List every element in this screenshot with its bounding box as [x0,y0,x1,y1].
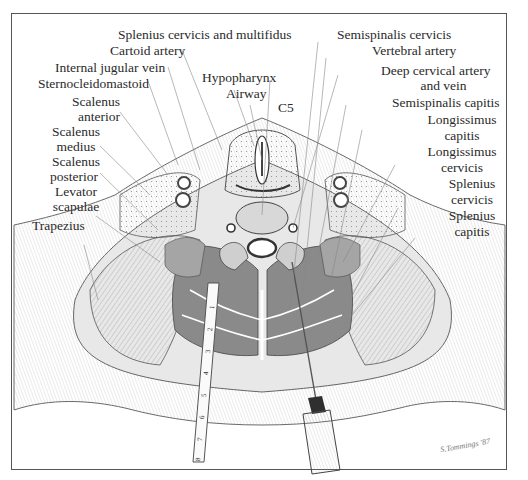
label-splenius-capitis-2: capitis [440,224,504,239]
label-scalenus-medius-2: medius [48,139,104,154]
label-levator-scapulae-1: Levator [48,184,104,199]
label-hypopharynx: Hypopharynx [202,70,276,85]
label-longissimus-capitis-2: capitis [420,128,504,143]
label-longissimus-cervicis-2: cervicis [420,160,504,175]
label-longissimus-capitis-1: Longissimus [420,112,504,127]
label-airway: Airway [226,86,267,101]
label-internal-jugular-vein: Internal jugular vein [55,60,165,75]
label-deep-cervical-and-vein: and vein [381,78,506,93]
label-splenius-cervicis-multifidus: Splenius cervicis and multifidus [118,27,292,42]
label-c5: C5 [278,100,294,115]
label-cartoid-artery: Cartoid artery [110,43,185,58]
label-trapezius: Trapezius [32,218,85,233]
label-longissimus-cervicis-1: Longissimus [420,144,504,159]
label-vertebral-artery: Vertebral artery [372,43,456,58]
label-splenius-cervicis-2: cervicis [440,192,504,207]
label-scalenus-posterior-1: Scalenus [48,154,104,169]
label-semispinalis-cervicis: Semispinalis cervicis [337,27,451,42]
label-scalenus-anterior-2: anterior [74,109,124,124]
label-splenius-cervicis-1: Splenius [440,176,504,191]
label-splenius-capitis-1: Splenius [440,208,504,223]
label-levator-scapulae-2: scapulae [46,199,106,214]
label-semispinalis-capitis: Semispinalis capitis [392,95,500,110]
label-scalenus-anterior-1: Scalenus [68,94,124,109]
label-scalenus-posterior-2: posterior [44,169,104,184]
label-sternocleidomastoid: Sternocleidomastoid [38,76,149,91]
label-scalenus-medius-1: Scalenus [48,124,104,139]
label-deep-cervical-artery: Deep cervical artery [381,63,490,78]
airway-larynx [225,130,300,198]
